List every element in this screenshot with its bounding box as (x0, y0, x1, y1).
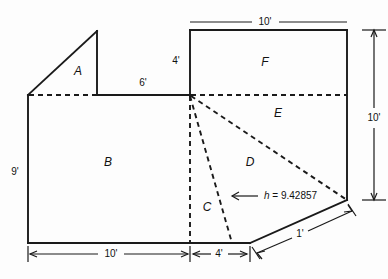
dimension-slant-label: 1' (296, 228, 304, 239)
dimension-top-10ft: 10' (190, 16, 347, 27)
dimension-riser-label: 4' (172, 55, 180, 66)
dimension-left-9ft: 9' (11, 166, 19, 177)
shape-outline (28, 30, 347, 243)
diagram-canvas: A B C D E F 10' 4' 6' 10' (0, 0, 388, 279)
dimension-slant-1ft: 1' (252, 204, 356, 259)
region-label-f: F (261, 55, 269, 69)
dimension-bottom-row: 10' 4' (28, 246, 250, 262)
dimension-span-label: 6' (139, 77, 147, 88)
edge-triangle-hypotenuse (28, 31, 97, 95)
region-label-c: C (203, 200, 212, 214)
dimension-bottom-4ft-label: 4' (215, 248, 223, 259)
region-label-a: A (73, 64, 82, 78)
region-label-e: E (274, 106, 283, 120)
height-annotation-text: h = 9.42857 (264, 190, 318, 201)
dimension-right-10ft: 10' (362, 30, 386, 200)
dashed-ray-to-bottom (190, 96, 232, 243)
dimension-right-label: 10' (367, 112, 380, 123)
dimension-slant-line-lower (257, 238, 292, 253)
dimension-slant-arrow-end (344, 205, 352, 212)
dimension-left-label: 9' (11, 166, 19, 177)
height-value: 9.42857 (281, 190, 318, 201)
region-label-d: D (246, 155, 255, 169)
height-annotation: h = 9.42857 (232, 190, 318, 201)
dimension-top-label: 10' (258, 16, 271, 27)
dimension-slant-arrow-start (257, 251, 265, 259)
region-label-b: B (104, 155, 112, 169)
dimension-bottom-10ft-label: 10' (104, 248, 117, 259)
height-equals: = (270, 190, 281, 201)
region-labels: A B C D E F (73, 55, 283, 214)
dimension-riser-4ft: 4' (172, 55, 180, 66)
dimension-span-6ft: 6' (139, 77, 147, 88)
geometry-diagram: A B C D E F 10' 4' 6' 10' (0, 0, 388, 279)
